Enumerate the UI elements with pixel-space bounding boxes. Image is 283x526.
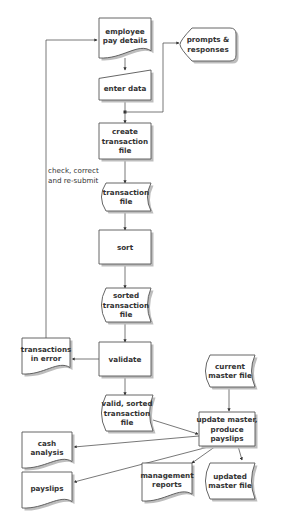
node-sort: sort bbox=[99, 230, 154, 267]
node-label-line: reports bbox=[152, 480, 182, 489]
node-transactions-in-error: transactionsin error bbox=[21, 338, 73, 377]
node-create-transaction-file: createtransactionfile bbox=[99, 123, 154, 162]
node-label-line: enter data bbox=[104, 84, 147, 93]
node-current-master-file: currentmaster file bbox=[205, 355, 257, 390]
notes: check, correct and re-submit bbox=[48, 166, 99, 185]
node-label-line: master file bbox=[208, 371, 252, 380]
node-valid-sorted-transaction-file: valid, sortedtransactionfile bbox=[101, 395, 155, 434]
node-label-line: management bbox=[140, 471, 194, 480]
node-enter-data: enter data bbox=[99, 70, 154, 103]
node-sorted-transaction-file: sortedtransactionfile bbox=[101, 288, 153, 325]
node-label-line: update master, bbox=[196, 415, 257, 424]
node-transaction-file: transactionfile bbox=[101, 183, 153, 214]
node-label-line: transaction bbox=[104, 409, 150, 418]
node-label-line: prompts & bbox=[187, 35, 230, 44]
node-label-line: current bbox=[215, 362, 245, 371]
node-updated-master-file: updatedmaster file bbox=[205, 463, 257, 502]
node-label-line: file bbox=[119, 146, 132, 155]
node-label-line: create bbox=[112, 127, 138, 136]
resubmit-note-line1: check, correct bbox=[48, 166, 99, 175]
node-label-line: responses bbox=[187, 45, 228, 54]
connector-valid-file-to-update bbox=[153, 420, 198, 434]
node-label-line: master file bbox=[208, 481, 252, 490]
node-label-line: file bbox=[120, 197, 133, 206]
node-label-line: updated bbox=[213, 472, 247, 481]
node-update-master: update master,producepayslips bbox=[196, 412, 257, 449]
node-label-line: transactions bbox=[21, 345, 72, 354]
node-label-line: payslips bbox=[210, 434, 243, 443]
node-label-line: valid, sorted bbox=[101, 399, 152, 408]
connector-update-to-cash-analysis bbox=[74, 436, 199, 447]
connector-update-to-management-reports bbox=[192, 446, 216, 463]
node-label-line: cash bbox=[38, 439, 57, 448]
node-label-line: produce bbox=[210, 425, 243, 434]
node-label-line: transaction bbox=[102, 137, 148, 146]
node-label-line: pay details bbox=[103, 36, 147, 45]
node-management-reports: managementreports bbox=[140, 463, 194, 504]
connector-resubmit-loop bbox=[46, 40, 97, 338]
node-validate: validate bbox=[99, 342, 154, 379]
node-label-line: file bbox=[121, 418, 134, 427]
node-prompts-responses: prompts &responses bbox=[180, 28, 239, 64]
flowchart: employeepay detailsprompts &responsesent… bbox=[0, 0, 283, 526]
node-label-line: transaction bbox=[103, 188, 149, 197]
node-label-line: transaction bbox=[103, 301, 149, 310]
node-label-line: analysis bbox=[31, 448, 64, 457]
node-label-line: sort bbox=[117, 243, 134, 252]
resubmit-note-line2: and re-submit bbox=[48, 176, 98, 185]
node-label-line: in error bbox=[31, 354, 62, 363]
node-label-line: payslips bbox=[30, 484, 63, 493]
shapes: employeepay detailsprompts &responsesent… bbox=[21, 18, 258, 511]
node-cash-analysis: cashanalysis bbox=[22, 432, 75, 471]
node-employee-pay-details: employeepay details bbox=[99, 18, 154, 61]
node-label-line: sorted bbox=[113, 291, 139, 300]
node-label-line: validate bbox=[109, 355, 142, 364]
node-label-line: employee bbox=[105, 27, 144, 36]
node-payslips: payslips bbox=[22, 472, 75, 511]
node-label-line: file bbox=[120, 310, 133, 319]
